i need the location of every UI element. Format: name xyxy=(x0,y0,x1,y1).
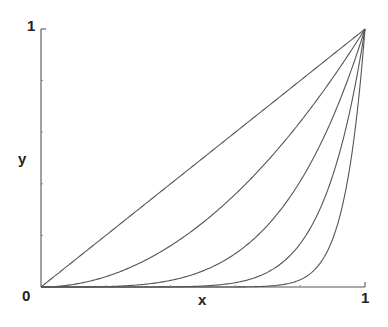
x-max-label: 1 xyxy=(361,289,369,306)
y-max-label: 1 xyxy=(27,17,35,34)
curves xyxy=(41,29,365,287)
curve-x-pow-1 xyxy=(41,29,365,287)
chart: 1 0 1 x y xyxy=(0,0,388,327)
origin-label: 0 xyxy=(22,287,30,304)
y-axis-label: y xyxy=(18,150,27,167)
x-axis-label: x xyxy=(198,291,207,308)
